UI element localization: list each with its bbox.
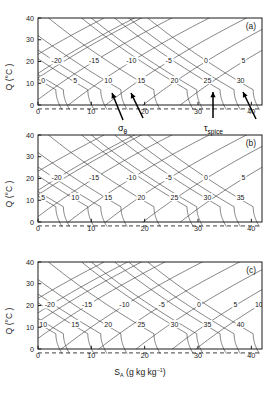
sigma-arrow-1 (112, 93, 123, 120)
density-contour (33, 18, 141, 81)
y-tick-label: 0 (30, 218, 34, 227)
density-contour-label: -20 (52, 174, 62, 181)
x-tick-label: 10 (87, 224, 95, 233)
panel-contours: -20-15-10-5055101520253035 (33, 135, 265, 226)
density-contour-label: -5 (159, 301, 165, 308)
density-contour-label: -5 (166, 57, 172, 64)
spice-contour-label: 30 (171, 321, 179, 328)
density-contour-label: 0 (204, 174, 208, 181)
panel-c: -20-15-10-505101015202530354001020304001… (26, 258, 265, 360)
spice-contour-label: 20 (171, 77, 179, 84)
spice-contour (49, 262, 161, 353)
arrow-head (210, 92, 215, 97)
density-contour-label: -20 (45, 301, 55, 308)
spice-contour-label: 35 (204, 321, 212, 328)
y-tick-label: 10 (26, 79, 34, 88)
x-tick-label: 30 (194, 107, 202, 116)
theta-sa-diagram: Q (°C )Q (°C )Q (°C )SA (g kg kg−1)-20-1… (0, 0, 280, 396)
density-contour-label: 5 (241, 57, 245, 64)
spice-contour (115, 262, 227, 353)
density-contour-label: -20 (52, 57, 62, 64)
spice-contour-label: 30 (237, 77, 245, 84)
x-tick-label: 30 (194, 224, 202, 233)
density-contour (33, 135, 141, 198)
panel-label: (b) (246, 138, 256, 148)
spice-contour (35, 72, 70, 109)
spice-contour-label: 25 (204, 77, 212, 84)
spice-contour-label: 15 (71, 321, 79, 328)
y-tick-label: 20 (26, 57, 34, 66)
x-tick-label: 20 (141, 224, 149, 233)
y-axis-label: Q (°C ) (4, 180, 14, 207)
spice-contour-label: 0 (41, 77, 45, 84)
density-contour-label: -15 (82, 301, 92, 308)
x-tick-label: 0 (36, 107, 40, 116)
x-tick-label: 0 (36, 351, 40, 360)
density-contour-label: -5 (166, 174, 172, 181)
y-tick-label: 10 (26, 323, 34, 332)
y-tick-label: 40 (26, 258, 34, 267)
tau-spice-label: τspice (204, 123, 223, 136)
density-contour (33, 262, 141, 325)
plot-root: Q (°C )Q (°C )Q (°C )SA (g kg kg−1)-20-1… (4, 14, 265, 378)
density-contour-label: -15 (89, 174, 99, 181)
density-contour-label: -15 (89, 57, 99, 64)
x-tick-label: 20 (141, 351, 149, 360)
spice-contour-label: 10 (71, 194, 79, 201)
y-axis-label: Q (°C ) (4, 63, 14, 90)
panel-contours: -20-15-10-505051015202530 (33, 18, 265, 109)
spice-contour-label: 15 (137, 77, 145, 84)
y-tick-label: 10 (26, 196, 34, 205)
y-tick-label: 30 (26, 152, 34, 161)
panel-frame (38, 18, 262, 105)
density-contour-label: 0 (204, 57, 208, 64)
annotations: σθτspice (112, 92, 256, 136)
x-tick-label: 10 (87, 351, 95, 360)
spice-contour-label: 30 (204, 194, 212, 201)
sigma-theta-label: σθ (118, 123, 128, 135)
spice-contour (35, 150, 127, 226)
density-contour-label: 5 (233, 301, 237, 308)
panel-frame (38, 135, 262, 222)
density-contour (180, 165, 265, 222)
x-axis-label: SA (g kg kg−1) (114, 367, 165, 378)
y-tick-label: 40 (26, 131, 34, 140)
density-contour (172, 288, 264, 349)
spice-contour (35, 189, 70, 226)
density-contour-label: -10 (126, 174, 136, 181)
figure-container: Q (°C )Q (°C )Q (°C )SA (g kg kg−1)-20-1… (0, 0, 280, 396)
panel-contours: -20-15-10-5051010152025303540 (33, 262, 265, 353)
y-tick-label: 20 (26, 301, 34, 310)
y-tick-label: 30 (26, 279, 34, 288)
panel-label: (a) (246, 21, 256, 31)
x-tick-label: 40 (247, 351, 255, 360)
spice-contour (35, 277, 127, 353)
density-contour-label: -10 (119, 301, 129, 308)
spice-contour-label: 5 (73, 77, 77, 84)
y-tick-label: 40 (26, 14, 34, 23)
spice-contour-label: 40 (237, 321, 245, 328)
spice-contour-label: 35 (237, 194, 245, 201)
x-tick-label: 30 (194, 351, 202, 360)
y-tick-label: 20 (26, 174, 34, 183)
spice-contour-label: 25 (171, 194, 179, 201)
spice-contour (91, 262, 203, 353)
density-contour-label: -10 (126, 57, 136, 64)
density-contour (180, 48, 265, 105)
spice-contour-label: 10 (104, 77, 112, 84)
spice-contour-label: 25 (137, 321, 145, 328)
spice-contour-label: 20 (104, 321, 112, 328)
panel-b: -20-15-10-505510152025303501020304001020… (26, 131, 265, 233)
x-tick-label: 40 (247, 224, 255, 233)
panel-frame (38, 262, 262, 349)
spice-contour-label: 5 (41, 194, 45, 201)
density-contour (136, 269, 264, 349)
density-contour-label: 5 (241, 174, 245, 181)
spice-contour-label: 10 (39, 321, 47, 328)
y-tick-label: 0 (30, 101, 34, 110)
panel-label: (c) (246, 265, 256, 275)
density-contour-label: 0 (197, 301, 201, 308)
spice-contour-label: 20 (137, 194, 145, 201)
density-contour (143, 146, 263, 222)
spice-contour (49, 18, 161, 109)
